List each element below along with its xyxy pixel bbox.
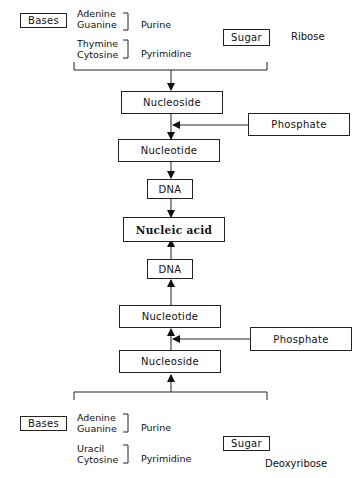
bases-box-top: Bases xyxy=(20,13,67,28)
nucleoside-label: Nucleoside xyxy=(141,356,199,367)
bases-label: Bases xyxy=(28,15,59,26)
dna-label: DNA xyxy=(159,184,182,195)
guanine-label: Guanine xyxy=(77,423,117,434)
uracil-label: Uracil xyxy=(77,443,118,454)
purine-bases-top: Adenine Guanine xyxy=(77,8,117,30)
cytosine-label: Cytosine xyxy=(77,49,118,60)
phosphate-box-bottom: Phosphate xyxy=(250,327,352,351)
cytosine-label: Cytosine xyxy=(77,454,118,465)
nucleoside-box-bottom: Nucleoside xyxy=(119,350,221,373)
nucleotide-box-top: Nucleotide xyxy=(118,139,220,162)
sugar-label: Sugar xyxy=(231,32,262,43)
guanine-label: Guanine xyxy=(77,19,117,30)
thymine-label: Thymine xyxy=(77,38,118,49)
sugar-box-top: Sugar xyxy=(223,29,270,46)
pyrimidine-bases-bottom: Uracil Cytosine xyxy=(77,443,118,465)
dna-box-bottom: DNA xyxy=(147,259,193,279)
pyrimidine-label-top: Pyrimidine xyxy=(141,48,191,59)
phosphate-label: Phosphate xyxy=(273,334,328,345)
adenine-label: Adenine xyxy=(77,412,117,423)
ribose-label: Ribose xyxy=(291,31,325,42)
sugar-label: Sugar xyxy=(231,438,262,449)
dna-label: DNA xyxy=(159,264,182,275)
pyrimidine-bases-top: Thymine Cytosine xyxy=(77,38,118,60)
bases-label: Bases xyxy=(28,418,59,429)
nucleotide-box-bottom: Nucleotide xyxy=(119,305,221,328)
phosphate-label: Phosphate xyxy=(271,119,326,130)
adenine-label: Adenine xyxy=(77,8,117,19)
purine-bases-bottom: Adenine Guanine xyxy=(77,412,117,434)
sugar-box-bottom: Sugar xyxy=(223,436,270,451)
phosphate-box-top: Phosphate xyxy=(248,113,350,136)
nucleotide-label: Nucleotide xyxy=(141,145,198,156)
pyrimidine-label-bottom: Pyrimidine xyxy=(141,453,191,464)
dna-box-top: DNA xyxy=(147,179,193,199)
nucleotide-label: Nucleotide xyxy=(142,311,199,322)
deoxyribose-label: Deoxyribose xyxy=(265,458,327,469)
purine-label-bottom: Purine xyxy=(141,422,171,433)
nucleoside-box-top: Nucleoside xyxy=(121,91,223,114)
bases-box-bottom: Bases xyxy=(20,416,67,431)
nucleic-acid-box: Nucleic acid xyxy=(123,217,225,242)
nucleic-acid-label: Nucleic acid xyxy=(136,224,212,236)
nucleoside-label: Nucleoside xyxy=(143,97,201,108)
purine-label-top: Purine xyxy=(141,19,171,30)
